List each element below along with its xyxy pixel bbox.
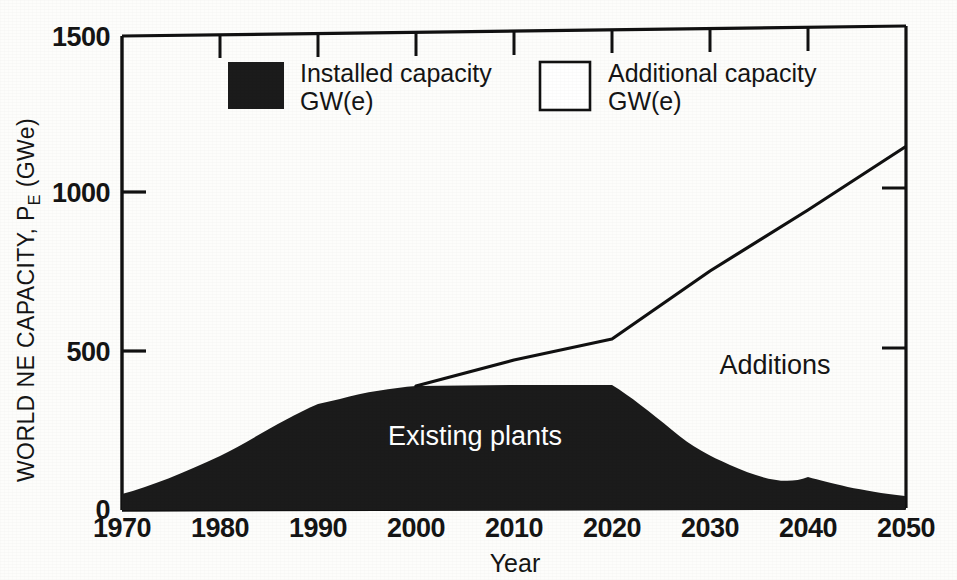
y-tick-label-1000: 1000 bbox=[52, 178, 110, 208]
chart-legend: Installed capacity GW(e) Additional capa… bbox=[228, 59, 817, 115]
x-tick-label-2050: 2050 bbox=[877, 513, 935, 543]
series-line-total-capacity bbox=[416, 147, 905, 386]
y-axis-ticks-right bbox=[882, 188, 906, 348]
top-axis-ticks bbox=[220, 27, 808, 58]
y-axis-title-subscript: E bbox=[26, 194, 43, 205]
chart-canvas: 1500 1000 500 0 1970 1980 1990 2000 2010… bbox=[0, 0, 957, 580]
x-tick-label-2000: 2000 bbox=[387, 513, 445, 543]
legend-item-additional-capacity[interactable]: Additional capacity GW(e) bbox=[540, 59, 817, 115]
y-tick-label-500: 500 bbox=[66, 337, 110, 367]
x-tick-label-2040: 2040 bbox=[779, 513, 837, 543]
y-tick-label-1500: 1500 bbox=[52, 22, 110, 52]
x-tick-labels: 1970 1980 1990 2000 2010 2020 2030 2040 … bbox=[93, 513, 935, 543]
annotation-existing-plants: Existing plants bbox=[388, 421, 562, 451]
y-axis-title-tail: (GWe) bbox=[13, 118, 39, 194]
legend-label-additional-capacity-line2: GW(e) bbox=[608, 87, 682, 115]
x-tick-label-2030: 2030 bbox=[681, 513, 739, 543]
svg-text:WORLD NE CAPACITY, PE (GWe): WORLD NE CAPACITY, PE (GWe) bbox=[13, 118, 43, 482]
x-tick-label-1980: 1980 bbox=[191, 513, 249, 543]
annotation-additions: Additions bbox=[719, 350, 830, 380]
legend-swatch-open-icon bbox=[540, 62, 590, 110]
y-axis-ticks bbox=[122, 192, 146, 351]
chart-figure: 1500 1000 500 0 1970 1980 1990 2000 2010… bbox=[0, 0, 957, 580]
x-tick-label-1970: 1970 bbox=[93, 513, 151, 543]
x-tick-label-2020: 2020 bbox=[583, 513, 641, 543]
y-axis-title: WORLD NE CAPACITY, PE (GWe) bbox=[13, 118, 43, 482]
legend-swatch-filled-icon bbox=[228, 62, 284, 109]
y-tick-labels: 1500 1000 500 0 bbox=[52, 22, 110, 525]
y-axis-title-main: WORLD NE CAPACITY, P bbox=[13, 205, 39, 482]
legend-item-installed-capacity[interactable]: Installed capacity GW(e) bbox=[228, 59, 492, 115]
legend-label-additional-capacity-line1: Additional capacity bbox=[608, 59, 817, 87]
x-tick-label-1990: 1990 bbox=[289, 513, 347, 543]
x-axis-title: Year bbox=[490, 549, 541, 577]
legend-label-installed-capacity-line1: Installed capacity bbox=[300, 59, 492, 87]
legend-label-installed-capacity-line2: GW(e) bbox=[300, 87, 374, 115]
x-tick-label-2010: 2010 bbox=[485, 513, 543, 543]
